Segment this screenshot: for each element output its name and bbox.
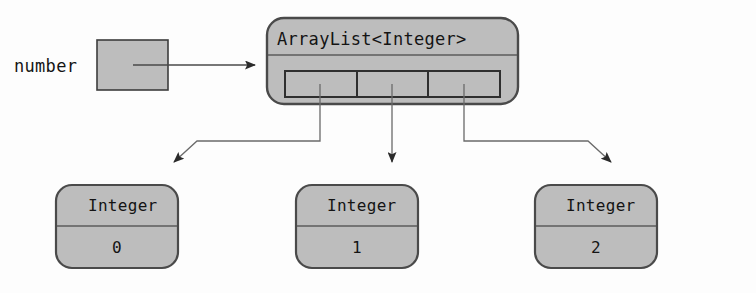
- integer-box-1-type: Integer: [327, 196, 397, 215]
- integer-box-0-value: 0: [112, 238, 122, 257]
- arraylist-title: ArrayList<Integer>: [277, 29, 467, 49]
- integer-box-2-value: 2: [591, 238, 601, 257]
- integer-box-1-value: 1: [352, 238, 362, 257]
- integer-box-0-type: Integer: [88, 196, 158, 215]
- object-reference-diagram: number ArrayList<Integer> Integer 0 Inte…: [0, 0, 756, 293]
- integer-box-2-type: Integer: [566, 196, 636, 215]
- variable-label: number: [14, 56, 77, 76]
